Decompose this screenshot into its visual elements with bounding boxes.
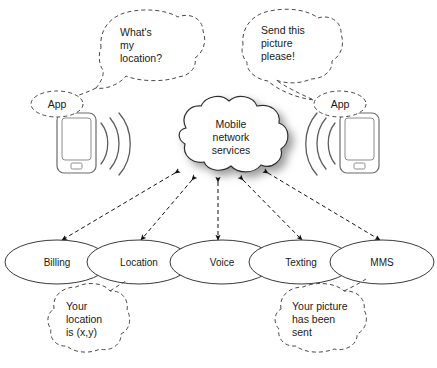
left-app-badge: App <box>31 91 83 117</box>
connector-texting <box>243 180 302 240</box>
mms-bubble-line1: Your picture <box>292 300 348 312</box>
service-label-texting: Texting <box>285 257 317 268</box>
service-node-mms[interactable]: MMS <box>330 240 434 284</box>
left-app-label: App <box>48 98 67 110</box>
mms-bubble-line3: sent <box>292 326 312 338</box>
connector-billing <box>62 173 175 240</box>
left-speech-bubble: What's my location? <box>96 10 205 88</box>
location-bubble-line3: is (x,y) <box>66 326 97 338</box>
cloud-service-connectors <box>62 173 380 240</box>
right-signal-waves <box>306 113 335 175</box>
service-label-mms: MMS <box>370 257 394 268</box>
right-bubble-line2: picture <box>261 37 293 49</box>
left-bubble-line3: location? <box>120 52 162 64</box>
service-label-billing: Billing <box>44 257 71 268</box>
location-bubble-line1: Your <box>66 300 88 312</box>
right-speech-bubble: Send this picture please! <box>242 9 343 100</box>
left-signal-waves <box>101 113 130 175</box>
connector-mms <box>268 173 380 240</box>
right-phone <box>340 113 379 173</box>
right-app-badge: App <box>314 91 366 117</box>
cloud-label-line1: Mobile <box>216 118 247 130</box>
right-app-label: App <box>331 98 350 110</box>
mms-bubble-line2: has been <box>292 313 335 325</box>
diagram-canvas: What's my location? Send this picture pl… <box>0 0 437 368</box>
mobile-network-cloud: Mobile network services <box>179 96 288 171</box>
service-label-location: Location <box>120 257 158 268</box>
right-bubble-line1: Send this <box>261 24 305 36</box>
service-label-voice: Voice <box>210 257 235 268</box>
mms-response-bubble: Your picture has been sent <box>275 279 366 352</box>
right-bubble-line3: please! <box>261 50 295 62</box>
location-bubble-line2: location <box>66 313 102 325</box>
left-bubble-line2: my <box>120 39 135 51</box>
location-response-bubble: Your location is (x,y) <box>48 280 130 352</box>
network-services-diagram: What's my location? Send this picture pl… <box>0 0 437 368</box>
left-bubble-line1: What's <box>120 26 152 38</box>
cloud-label-line3: services <box>212 144 251 156</box>
cloud-label-line2: network <box>213 131 251 143</box>
left-phone <box>57 113 96 173</box>
